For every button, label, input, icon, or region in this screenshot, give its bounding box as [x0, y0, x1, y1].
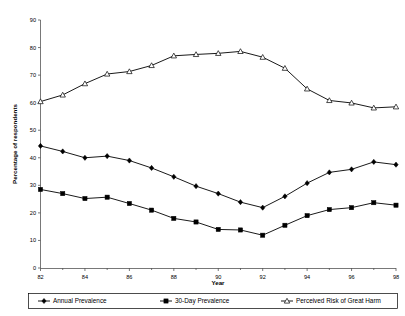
y-tick-label: 70	[30, 72, 36, 78]
y-axis-ticks: 0102030405060708090	[30, 17, 41, 271]
data-point-marker	[216, 227, 220, 231]
data-point-marker	[238, 49, 243, 54]
data-point-marker	[82, 81, 87, 86]
data-point-marker	[149, 165, 153, 170]
data-point-marker	[394, 162, 398, 167]
data-point-marker	[327, 98, 332, 103]
data-point-marker	[372, 159, 376, 164]
data-point-marker	[194, 184, 198, 189]
data-point-marker	[349, 167, 353, 172]
legend-marker-icon	[164, 299, 168, 303]
data-point-marker	[149, 63, 154, 68]
y-tick-label: 20	[30, 210, 36, 216]
data-point-marker	[261, 233, 265, 237]
data-point-marker	[105, 154, 109, 159]
y-axis-title: Percentage of respondents	[11, 104, 18, 184]
y-tick-label: 50	[30, 127, 36, 133]
data-point-marker	[105, 195, 109, 199]
data-point-marker	[349, 206, 353, 210]
data-point-marker	[394, 203, 398, 207]
chart-figure: 0102030405060708090 828486889092949698 P…	[0, 0, 405, 316]
data-point-marker	[216, 191, 220, 196]
data-point-marker	[305, 181, 309, 186]
legend-item-label: Perceived Risk of Great Harm	[296, 297, 381, 304]
x-tick-label: 98	[393, 274, 399, 280]
data-point-marker	[327, 170, 331, 175]
data-series	[38, 49, 399, 110]
series-polyline	[41, 51, 397, 107]
legend-item[interactable]: Perceived Risk of Great Harm	[281, 297, 381, 304]
y-tick-label: 90	[30, 17, 36, 23]
data-point-marker	[282, 66, 287, 71]
data-point-marker	[260, 205, 264, 210]
x-tick-label: 84	[82, 274, 88, 280]
data-point-marker	[238, 200, 242, 205]
y-tick-label: 80	[30, 45, 36, 51]
data-point-marker	[172, 216, 176, 220]
x-tick-label: 88	[171, 274, 177, 280]
data-series	[38, 143, 398, 210]
data-point-marker	[327, 207, 331, 211]
y-tick-label: 10	[30, 237, 36, 243]
data-point-marker	[283, 223, 287, 227]
y-tick-label: 40	[30, 155, 36, 161]
data-point-marker	[127, 158, 131, 163]
data-series-layer	[38, 49, 399, 238]
data-point-marker	[38, 187, 42, 191]
data-point-marker	[194, 220, 198, 224]
x-tick-label: 92	[260, 274, 266, 280]
legend-item-label: Annual Prevalence	[53, 297, 107, 304]
x-axis-title: Year	[211, 279, 225, 286]
data-point-marker	[83, 196, 87, 200]
data-point-marker	[61, 192, 65, 196]
y-tick-label: 0	[33, 265, 36, 271]
data-point-marker	[172, 174, 176, 179]
data-point-marker	[61, 149, 65, 154]
y-tick-label: 60	[30, 100, 36, 106]
data-point-marker	[83, 155, 87, 160]
y-tick-label: 30	[30, 182, 36, 188]
data-point-marker	[60, 92, 65, 97]
line-chart-canvas: 0102030405060708090 828486889092949698 P…	[0, 0, 405, 316]
legend-item-label: 30-Day Prevalence	[175, 297, 230, 305]
data-point-marker	[127, 201, 131, 205]
x-tick-label: 96	[348, 274, 354, 280]
data-point-marker	[283, 194, 287, 199]
x-tick-label: 86	[126, 274, 132, 280]
data-point-marker	[372, 201, 376, 205]
x-tick-label: 82	[37, 274, 43, 280]
data-point-marker	[305, 214, 309, 218]
x-tick-label: 94	[304, 274, 310, 280]
data-point-marker	[238, 228, 242, 232]
data-point-marker	[38, 143, 42, 148]
data-point-marker	[149, 208, 153, 212]
chart-legend: Annual Prevalence30-Day PrevalencePercei…	[29, 294, 398, 309]
